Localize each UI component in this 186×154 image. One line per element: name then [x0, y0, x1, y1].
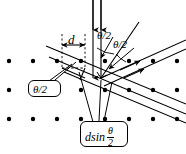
leader-line-group-pathdiff — [79, 72, 112, 122]
lattice-dot — [103, 59, 107, 63]
path-difference-label: dsin θ 2 — [85, 126, 114, 148]
boxed-path-difference-callout: dsin θ 2 — [80, 121, 128, 147]
lattice-dot — [175, 88, 179, 92]
lattice-dot — [7, 88, 11, 92]
angle-label-right: θ/2 — [113, 39, 127, 50]
lattice-dot — [79, 88, 83, 92]
leader-line — [79, 72, 93, 122]
lattice-dot — [31, 117, 35, 121]
lattice-dot — [151, 117, 155, 121]
boxed-angle-label: θ/2 — [33, 83, 47, 95]
leader-line — [55, 62, 76, 80]
path-difference-numerator: θ — [107, 126, 114, 138]
lattice-dot — [31, 59, 35, 63]
lattice-dot — [79, 117, 83, 121]
lattice-dot — [55, 117, 59, 121]
lattice-dot — [7, 117, 11, 121]
path-difference-triangle — [62, 68, 85, 80]
boxed-angle-callout: θ/2 — [28, 80, 61, 97]
leader-line-group-angle — [49, 62, 76, 81]
lattice-dot — [7, 59, 11, 63]
path-difference-denominator: 2 — [107, 138, 114, 149]
lattice-dot — [127, 117, 131, 121]
crystal-plane-line — [64, 72, 186, 123]
diffracted-ray-arrow-2 — [124, 69, 144, 78]
path-difference-sin: sin — [91, 130, 105, 145]
angle-label-left: θ/2 — [97, 30, 111, 41]
leader-line — [99, 80, 101, 121]
bragg-diffraction-figure: d θ/2 θ/2 θ/2 dsin θ 2 — [0, 0, 186, 154]
leader-line — [49, 64, 72, 81]
crystal-plane-group — [46, 46, 186, 123]
spacing-label: d — [68, 33, 75, 46]
lattice-dot — [127, 59, 131, 63]
angle-arc-right — [116, 54, 126, 62]
lattice-dot — [151, 59, 155, 63]
lattice-dot — [175, 59, 179, 63]
path-difference-fraction: θ 2 — [107, 126, 114, 148]
